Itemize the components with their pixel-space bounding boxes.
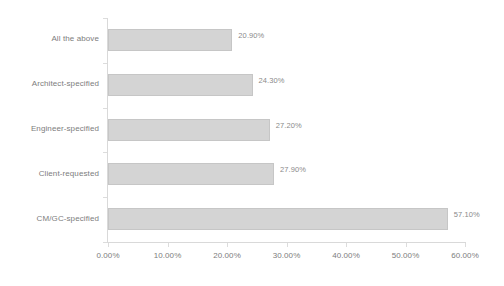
bar[interactable]	[108, 29, 232, 51]
bar-value-label: 20.90%	[238, 31, 264, 40]
bar-row: 24.30%	[108, 63, 465, 108]
y-axis-tick	[103, 152, 107, 153]
bar-value-label: 27.90%	[280, 165, 306, 174]
x-axis-tick	[287, 243, 288, 247]
x-axis-tick	[168, 243, 169, 247]
bar[interactable]	[108, 208, 448, 230]
bar-row: 57.10%	[108, 197, 465, 242]
bar-value-label: 27.20%	[276, 121, 302, 130]
category-label: Engineer-specified	[0, 124, 99, 133]
bar[interactable]	[108, 163, 274, 185]
bar[interactable]	[108, 74, 253, 96]
category-label: Architect-specified	[0, 79, 99, 88]
category-label: All the above	[0, 34, 99, 43]
x-axis-tick-label: 60.00%	[430, 251, 500, 260]
bar[interactable]	[108, 119, 270, 141]
y-axis-tick	[103, 197, 107, 198]
y-axis-tick	[103, 63, 107, 64]
y-axis-tick	[103, 242, 107, 243]
bar-row: 27.20%	[108, 108, 465, 153]
x-axis-tick	[108, 243, 109, 247]
plot-area: 20.90%24.30%27.20%27.90%57.10%	[108, 18, 465, 242]
bar-row: 27.90%	[108, 152, 465, 197]
x-axis-tick	[406, 243, 407, 247]
category-label: Client-requested	[0, 169, 99, 178]
y-axis-tick	[103, 108, 107, 109]
bar-chart: 0.00%10.00%20.00%30.00%40.00%50.00%60.00…	[0, 0, 504, 286]
bar-value-label: 57.10%	[454, 210, 480, 219]
bar-value-label: 24.30%	[259, 76, 285, 85]
x-axis-tick	[465, 243, 466, 247]
y-axis-tick	[103, 18, 107, 19]
category-label: CM/GC-specified	[0, 214, 99, 223]
x-axis-tick	[346, 243, 347, 247]
x-axis-tick	[227, 243, 228, 247]
bar-row: 20.90%	[108, 18, 465, 63]
